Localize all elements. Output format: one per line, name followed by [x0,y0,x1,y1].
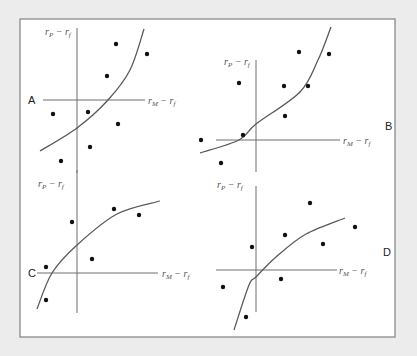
panel-c-data-point [112,207,116,211]
panel-a-data-point [51,112,55,116]
figure-canvas: rP − rfrM − rfArP − rfrM − rfBrP − rfrM … [0,0,417,356]
panel-c-data-point [137,213,141,217]
panel-b-data-point [327,52,331,56]
panel-d-data-point [279,277,283,281]
panel-d-letter: D [383,246,391,258]
panel-b-y-axis-label-minus: − [232,56,244,67]
panel-b-data-point [297,50,301,54]
panel-b-data-point [282,84,286,88]
panel-b-data-point [237,81,241,85]
panel-b-data-point [219,161,223,165]
panel-a-data-point [86,110,90,114]
panel-b-x-axis-label-minus: − [353,135,365,146]
figure-frame [20,19,395,337]
panel-a-x-axis-label-minus: − [158,95,170,106]
panel-d-y-axis-label-minus: − [225,179,237,190]
panel-d-data-point [250,245,254,249]
panel-a-data-point [59,159,63,163]
panel-c-data-point [44,298,48,302]
panel-c-data-point [44,265,48,269]
panel-a-data-point [114,42,118,46]
panel-b-data-point [199,138,203,142]
panel-a-y-axis-label-minus: − [53,26,65,37]
panel-b-data-point [283,114,287,118]
panel-d-data-point [221,285,225,289]
panel-c-y-axis-label-minus: − [46,178,58,189]
panel-d-data-point [308,201,312,205]
panel-d-x-axis-label-minus: − [349,265,361,276]
panel-a-data-point [145,52,149,56]
panel-d-data-point [283,233,287,237]
panel-b-data-point [241,133,245,137]
panel-a-data-point [105,74,109,78]
panel-c-data-point [90,257,94,261]
panel-c-letter: C [28,267,36,279]
panel-a-letter: A [28,94,36,106]
panel-d-data-point [244,315,248,319]
panel-d-data-point [353,225,357,229]
panel-d-data-point [321,242,325,246]
panel-c-data-point [70,220,74,224]
panel-a-data-point [88,145,92,149]
panel-c-x-axis-label-minus: − [172,268,184,279]
panel-b-data-point [306,84,310,88]
panel-a-data-point [116,122,120,126]
panel-b-letter: B [385,120,392,132]
